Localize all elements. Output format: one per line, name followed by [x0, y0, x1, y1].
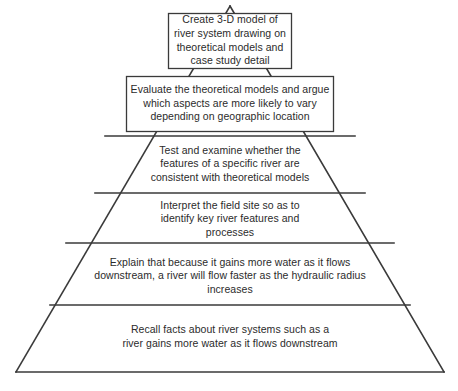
tier-3-text: Test and examine whether the features of…	[135, 139, 325, 189]
pyramid-diagram: Create 3-D model of river system drawing…	[0, 0, 458, 391]
tier-1-text: Create 3-D model of river system drawing…	[170, 14, 290, 67]
tier-6-text: Recall facts about river systems such as…	[60, 318, 400, 356]
tier-2-text: Evaluate the theoretical models and argu…	[128, 77, 332, 130]
tier-5-text: Explain that because it gains more water…	[78, 250, 382, 302]
tier-4-text: Interpret the field site so as to identi…	[118, 197, 342, 241]
